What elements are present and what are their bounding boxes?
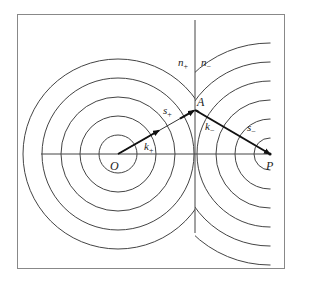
label-O: O bbox=[110, 159, 119, 173]
label-n-plus: n+ bbox=[178, 56, 189, 71]
ray-s-minus bbox=[195, 110, 270, 154]
label-n-minus: n− bbox=[201, 56, 212, 71]
label-A: A bbox=[196, 95, 205, 109]
label-s-plus: s+ bbox=[163, 104, 172, 119]
refraction-diagram: n+ n− A s+ k− s− k+ O P bbox=[0, 0, 310, 283]
label-s-minus: s− bbox=[247, 121, 256, 136]
point-P bbox=[268, 152, 271, 155]
label-k-minus: k− bbox=[205, 120, 215, 135]
label-P: P bbox=[265, 159, 274, 173]
label-k-plus: k+ bbox=[144, 140, 154, 155]
a-arrow-left bbox=[180, 111, 194, 119]
figure-frame bbox=[18, 15, 285, 269]
